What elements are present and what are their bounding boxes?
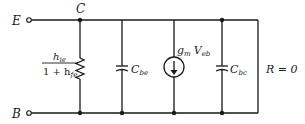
circuit-diagram: E B C hie 1 + hfe Cbe gmVeb Cbc R = 0 <box>0 0 305 124</box>
junction-dot <box>78 18 82 22</box>
terminal-b-icon <box>27 111 32 116</box>
junction-dot <box>220 111 224 115</box>
junction-dot <box>120 111 124 115</box>
label-gm-veb: gmVeb <box>177 44 211 58</box>
junction-dot <box>78 111 82 115</box>
terminal-e-icon <box>27 18 32 23</box>
label-cbc: Cbc <box>230 63 247 77</box>
label-e: E <box>11 14 21 28</box>
resistor-den: 1 + hfe <box>43 66 77 79</box>
resistor-num: hie <box>53 51 66 64</box>
label-cbe: Cbe <box>131 63 148 77</box>
junction-dot <box>220 18 224 22</box>
label-b: B <box>11 107 21 121</box>
label-c: C <box>76 2 85 16</box>
arrow-down-icon <box>171 70 178 75</box>
label-r-zero: R = 0 <box>265 63 298 76</box>
junction-dot <box>172 111 176 115</box>
